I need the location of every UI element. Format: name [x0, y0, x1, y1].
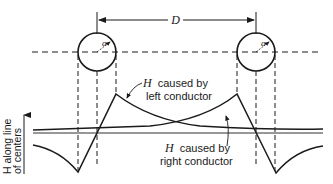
field-distribution-diagram: D a a H [0, 0, 333, 184]
y-axis: H along line of centers [1, 115, 24, 174]
left-curve-label: H caused by left conductor [127, 76, 212, 102]
right-radius-label: a [261, 38, 266, 48]
left-radius-label: a [102, 38, 107, 48]
right-curve-label: H caused by right conductor [160, 116, 233, 167]
left-label-line2: left conductor [146, 90, 212, 102]
svg-text:H caused by: H caused by [164, 141, 230, 155]
right-label-line1: caused by [180, 142, 231, 154]
right-label-symbol: H [164, 141, 175, 155]
distance-label: D [170, 13, 180, 27]
y-axis-label-line2: of centers [11, 128, 23, 174]
left-label-symbol: H [142, 76, 153, 90]
left-label-line1: caused by [158, 77, 209, 89]
svg-text:H caused by: H caused by [142, 76, 208, 90]
distance-dimension: D [97, 12, 256, 34]
right-label-line2: right conductor [160, 155, 233, 167]
